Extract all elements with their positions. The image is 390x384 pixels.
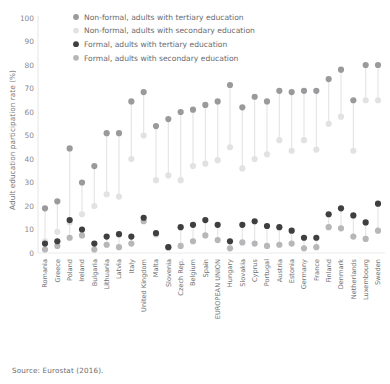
data-point — [227, 245, 233, 251]
category-label: Luxembourg — [362, 259, 370, 300]
data-point — [313, 244, 319, 250]
y-axis-tick-label: 20 — [25, 202, 35, 211]
data-point — [91, 203, 97, 209]
data-point — [116, 231, 122, 237]
data-point — [79, 226, 85, 232]
data-point — [165, 116, 171, 122]
category-label: Belgium — [189, 259, 197, 286]
data-point — [338, 67, 344, 73]
data-point — [375, 97, 381, 103]
data-point — [326, 121, 332, 127]
data-point — [338, 114, 344, 120]
dot-plot-chart: 0102030405060708090100 Non-formal, adult… — [0, 0, 390, 360]
category-label: Poland — [66, 259, 74, 281]
category-label: Denmark — [337, 259, 345, 289]
category-label: Ireland — [78, 259, 86, 282]
data-point — [301, 88, 307, 94]
data-point — [239, 222, 245, 228]
data-point — [350, 212, 356, 218]
category-label: Malta — [152, 259, 160, 277]
data-point — [252, 156, 258, 162]
data-point — [178, 109, 184, 115]
data-point — [313, 235, 319, 241]
data-point — [202, 161, 208, 167]
data-point — [338, 205, 344, 211]
data-point — [202, 102, 208, 108]
data-point — [227, 144, 233, 150]
data-point — [190, 163, 196, 169]
category-label: Spain — [202, 259, 210, 277]
data-point — [202, 232, 208, 238]
data-point — [153, 123, 159, 129]
data-point — [215, 237, 221, 243]
y-axis-title-group: Adult education participation rate (%) — [8, 70, 17, 210]
category-label: Germany — [300, 259, 308, 289]
data-point — [350, 233, 356, 239]
category-label: Italy — [128, 259, 136, 273]
data-point — [326, 211, 332, 217]
category-label: France — [313, 259, 321, 281]
figure-container: 0102030405060708090100 Non-formal, adult… — [0, 0, 390, 384]
data-point — [289, 89, 295, 95]
data-point — [264, 243, 270, 249]
data-point — [190, 238, 196, 244]
data-point — [350, 97, 356, 103]
data-point — [116, 194, 122, 200]
category-label: Estonia — [288, 259, 296, 283]
data-point — [289, 148, 295, 154]
y-axis-tick-label: 70 — [25, 84, 35, 93]
category-label: Greece — [54, 259, 62, 282]
category-label: Bulgaria — [91, 259, 99, 286]
data-point — [363, 236, 369, 242]
data-point — [375, 228, 381, 234]
category-label: Netherlands — [350, 258, 358, 299]
data-point — [42, 205, 48, 211]
data-point — [350, 148, 356, 154]
data-point — [91, 241, 97, 247]
data-point — [104, 233, 110, 239]
data-point — [276, 242, 282, 248]
category-label: EUROPEAN UNION — [214, 259, 222, 319]
data-point — [227, 238, 233, 244]
data-point — [153, 177, 159, 183]
category-label: Latvia — [115, 259, 123, 279]
data-point — [67, 145, 73, 151]
data-point — [153, 230, 159, 236]
data-point — [202, 217, 208, 223]
data-point — [227, 82, 233, 88]
data-point — [54, 238, 60, 244]
data-point — [190, 222, 196, 228]
data-point — [264, 151, 270, 157]
category-label: Finland — [325, 259, 333, 283]
legend-label: Non-formal, adults with secondary educat… — [84, 26, 255, 35]
data-point — [375, 201, 381, 207]
data-point — [54, 229, 60, 235]
data-point — [141, 132, 147, 138]
data-point — [128, 241, 134, 247]
data-point — [141, 215, 147, 221]
data-point — [42, 246, 48, 252]
data-point — [190, 107, 196, 113]
category-label: United Kingdom — [140, 259, 148, 312]
y-axis-tick-label: 80 — [25, 61, 35, 70]
data-point — [79, 211, 85, 217]
data-point — [239, 104, 245, 110]
category-label: Romania — [41, 259, 49, 288]
data-point — [239, 165, 245, 171]
data-point — [116, 244, 122, 250]
data-point — [104, 242, 110, 248]
data-point — [301, 235, 307, 241]
legend-marker — [73, 55, 79, 61]
data-point — [165, 244, 171, 250]
category-label: Czech Rep. — [177, 259, 185, 296]
data-point — [128, 233, 134, 239]
y-axis-tick-label: 30 — [25, 178, 35, 187]
category-label: Cyprus — [251, 258, 259, 282]
data-point — [67, 217, 73, 223]
data-point — [363, 97, 369, 103]
data-point — [116, 130, 122, 136]
data-point — [104, 191, 110, 197]
data-point — [276, 137, 282, 143]
y-axis-tick-label: 60 — [25, 108, 35, 117]
data-point — [215, 222, 221, 228]
